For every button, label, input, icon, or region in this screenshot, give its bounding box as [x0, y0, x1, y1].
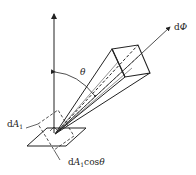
flux-direction-ray	[55, 27, 170, 134]
radiance-diagram: dΦ θ dA1 dA1cosθ	[0, 0, 196, 175]
diagram-canvas	[0, 0, 196, 175]
surface-element	[27, 128, 86, 146]
projected-area-label: dA1cosθ	[68, 158, 105, 168]
theta-label: θ	[80, 68, 85, 77]
solid-angle-box	[112, 45, 150, 77]
area-tick	[26, 124, 38, 128]
projected-area-tick	[54, 150, 60, 160]
flux-label: dΦ	[174, 23, 187, 32]
area-label: dA1	[7, 120, 23, 130]
theta-arc-end-dot	[94, 95, 96, 97]
